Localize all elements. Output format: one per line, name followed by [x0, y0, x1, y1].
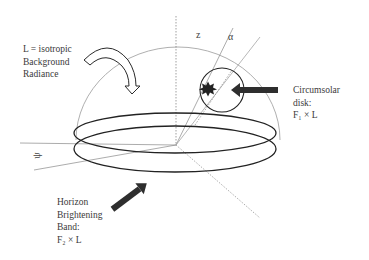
horizon-label-line-4: F₂ × L: [57, 234, 102, 247]
altitude-angle-label: α: [228, 31, 233, 42]
background-label-line-2: Background: [23, 56, 72, 69]
background-label-line-1: L = isotropic: [23, 43, 72, 56]
sky-radiance-diagram: [0, 0, 369, 260]
horizon-band-label: Horizon Brightening Band: F₂ × L: [57, 196, 102, 246]
circumsolar-label-line-1: Circumsolar: [293, 84, 340, 97]
background-label-line-3: Radiance: [23, 68, 72, 81]
zenith-angle-label: z: [196, 29, 200, 40]
sun-dashed-line: [195, 70, 232, 125]
horizon-arrow-icon: [108, 178, 151, 215]
background-radiance-label: L = isotropic Background Radiance: [23, 43, 72, 81]
horizon-label-line-2: Brightening: [57, 209, 102, 222]
projection-line: [176, 145, 260, 218]
azimuth-angle-label: ψ: [31, 152, 42, 158]
horizon-band-lower: [74, 126, 276, 172]
circumsolar-label-line-3: F₁ × L: [293, 109, 340, 122]
azimuth-line: [34, 145, 176, 170]
circumsolar-label-line-2: disk:: [293, 97, 340, 110]
circumsolar-arrow-icon: [231, 83, 278, 97]
horizon-label-line-3: Band:: [57, 221, 102, 234]
background-radiance-arrow-icon: [84, 48, 140, 94]
sun-icon: [199, 82, 217, 97]
horizontal-axis-left: [20, 143, 176, 145]
circumsolar-label: Circumsolar disk: F₁ × L: [293, 84, 340, 122]
horizon-label-line-1: Horizon: [57, 196, 102, 209]
